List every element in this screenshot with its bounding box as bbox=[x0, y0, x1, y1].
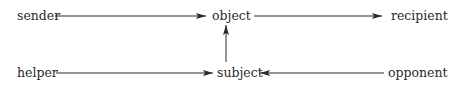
node-opponent: opponent bbox=[388, 66, 448, 80]
node-sender: sender bbox=[17, 9, 60, 23]
actantial-diagram: sender object recipient helper subject o… bbox=[0, 0, 453, 87]
node-subject: subject bbox=[217, 66, 263, 80]
node-recipient: recipient bbox=[391, 9, 448, 23]
node-helper: helper bbox=[17, 66, 58, 80]
node-object: object bbox=[212, 9, 251, 23]
